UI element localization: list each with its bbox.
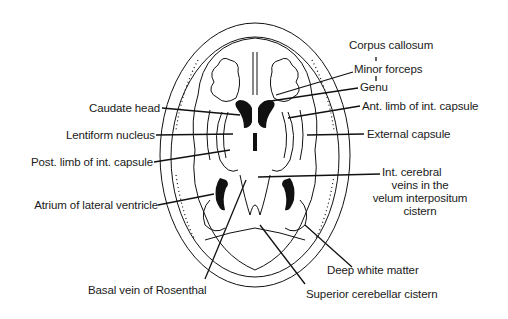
- label-deep-white-matter: Deep white matter: [327, 264, 419, 277]
- skull-inner: [171, 37, 339, 277]
- third-ventricle: [253, 133, 257, 151]
- label-basal-vein: Basal vein of Rosenthal: [88, 284, 207, 297]
- label-ant-limb: Ant. limb of int. capsule: [362, 100, 478, 113]
- label-lentiform: Lentiform nucleus: [66, 129, 155, 142]
- skull-outer: [160, 23, 350, 287]
- label-external-capsule: External capsule: [367, 128, 450, 141]
- label-atrium: Atrium of lateral ventricle: [34, 199, 158, 212]
- label-int-cerebral-line3: velum interpositum: [362, 192, 478, 205]
- label-caudate-head: Caudate head: [89, 102, 160, 115]
- label-post-limb: Post. limb of int. capsule: [31, 156, 153, 169]
- label-superior-cerebellar-cistern: Superior cerebellar cistern: [306, 288, 438, 301]
- label-int-cerebral-line2: veins in the: [362, 179, 478, 192]
- label-corpus-callosum: Corpus callosum: [349, 39, 433, 52]
- frontal-horn-left: [235, 100, 252, 128]
- label-int-cerebral-line1: Int. cerebral: [362, 166, 478, 179]
- atrium-right: [282, 178, 295, 210]
- label-int-cerebral-veins: Int. cerebral veins in the velum interpo…: [362, 166, 478, 218]
- atrium-left: [216, 178, 229, 210]
- label-genu: Genu: [360, 81, 388, 94]
- label-int-cerebral-line4: cistern: [362, 205, 478, 218]
- label-minor-forceps: Minor forceps: [354, 63, 422, 76]
- frontal-horn-right: [258, 100, 275, 128]
- leader-lines: [154, 57, 380, 284]
